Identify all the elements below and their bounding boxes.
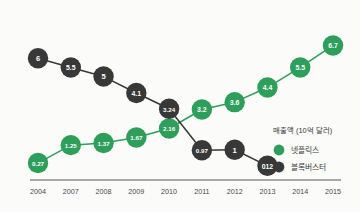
- data-point: 0.97: [192, 140, 212, 160]
- node-value-label: 4.4: [263, 84, 273, 91]
- data-point: 6: [28, 48, 48, 68]
- x-axis-tick-2012: 2012: [227, 187, 243, 196]
- data-point: 5.5: [290, 57, 310, 77]
- legend-swatch-netflix: [274, 145, 285, 156]
- chart-legend: 매출액 (10억 달러) 넷플릭스 블록버스터: [273, 126, 332, 172]
- node-value-label: 5.5: [66, 64, 76, 71]
- node-value-label: 1.67: [130, 134, 143, 141]
- node-value-label: 4.1: [132, 90, 142, 97]
- revenue-crossover-chart: 0.271.251.371.672.163.23.64.45.56.765.55…: [0, 0, 360, 212]
- data-point: 1.67: [126, 127, 146, 147]
- x-axis-tick-labels: 2004200720082009201020112012201320142015: [30, 187, 341, 196]
- x-axis-tick-2004: 2004: [30, 187, 46, 196]
- x-axis-tick-2011: 2011: [194, 187, 209, 196]
- node-value-label: 3.24: [163, 106, 176, 113]
- data-point: 3.2: [192, 99, 212, 119]
- data-point: 5.5: [61, 57, 81, 77]
- node-value-label: 1.25: [65, 142, 78, 149]
- legend-swatch-blockbuster: [274, 162, 285, 173]
- node-value-label: 1.37: [98, 140, 111, 147]
- data-point: 5: [93, 66, 113, 86]
- x-axis-tick-2010: 2010: [161, 187, 177, 196]
- connector-lines: [38, 45, 333, 165]
- legend-label-netflix: 넷플릭스: [291, 146, 319, 155]
- data-point: 4.4: [257, 77, 277, 97]
- node-value-label: 0.27: [32, 160, 45, 167]
- data-point: 1.37: [93, 133, 113, 153]
- x-axis-tick-2008: 2008: [96, 187, 112, 196]
- x-axis-tick-2007: 2007: [63, 187, 79, 196]
- data-point: 1.25: [61, 135, 81, 155]
- node-value-label: 3.6: [230, 99, 240, 106]
- node-value-label: 6: [36, 54, 40, 63]
- node-value-label: 2.16: [163, 125, 176, 132]
- data-point: 3.6: [224, 92, 244, 112]
- x-axis-tick-2009: 2009: [128, 187, 144, 196]
- node-value-label: 012: [262, 163, 274, 170]
- data-point: 6.7: [323, 35, 343, 55]
- chart-canvas: 0.271.251.371.672.163.23.64.45.56.765.55…: [0, 0, 360, 212]
- node-value-label: 5.5: [295, 64, 305, 71]
- data-point: 0.27: [28, 153, 48, 173]
- node-value-label: 0.97: [196, 147, 209, 154]
- data-point: 4.1: [126, 83, 146, 103]
- data-point: 1: [224, 140, 244, 160]
- legend-label-blockbuster: 블록버스터: [291, 162, 326, 172]
- x-axis-tick-2015: 2015: [325, 187, 341, 196]
- x-axis-tick-2013: 2013: [259, 187, 275, 196]
- data-point: 3.24: [159, 99, 179, 119]
- node-value-label: 6.7: [328, 42, 338, 49]
- x-axis-tick-2014: 2014: [292, 187, 308, 196]
- legend-title: 매출액 (10억 달러): [273, 126, 332, 135]
- data-point: 2.16: [159, 118, 179, 138]
- node-value-label: 3.2: [197, 106, 207, 113]
